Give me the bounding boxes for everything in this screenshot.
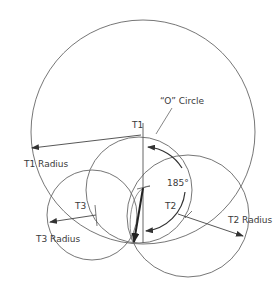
t3-label: T3	[74, 201, 86, 211]
diagram-canvas: “O” Circle T1 T1 Radius 185° T2 T3 T3 Ra…	[0, 0, 280, 294]
t3-radius-arrow	[50, 215, 96, 222]
o-circle	[86, 137, 192, 243]
o-circle-label: “O” Circle	[160, 96, 205, 106]
t1-radius-arrow	[32, 135, 141, 148]
diagram-svg: “O” Circle T1 T1 Radius 185° T2 T3 T3 Ra…	[0, 0, 280, 294]
inner-arc	[130, 186, 150, 243]
t2-radius-label: T2 Radius	[227, 215, 273, 225]
t1-radius-label: T1 Radius	[23, 159, 69, 169]
t3-radius-label: T3 Radius	[35, 234, 81, 244]
o-circle-leader-line	[156, 108, 172, 134]
resultant-arrow	[134, 188, 143, 242]
angle-label: 185°	[167, 178, 189, 188]
t1-label: T1	[131, 120, 143, 130]
angle-arc-185	[148, 147, 182, 168]
t2-label: T2	[164, 201, 176, 211]
